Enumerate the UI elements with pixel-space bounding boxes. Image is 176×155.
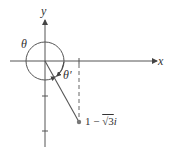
point-label: 1 − √3i	[85, 116, 117, 127]
y-axis-label: y	[41, 5, 46, 17]
complex-point	[77, 120, 81, 124]
x-axis-label: x	[158, 55, 163, 67]
theta-label: θ	[21, 38, 27, 50]
point-label-suffix: i	[114, 115, 117, 127]
point-label-sqrt: √3	[102, 115, 114, 127]
theta-prime-label: θ′	[63, 69, 72, 81]
point-label-prefix: 1 −	[85, 115, 102, 127]
complex-plane-diagram	[0, 0, 176, 155]
